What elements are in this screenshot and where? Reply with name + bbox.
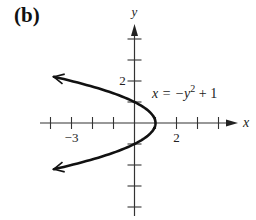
equation-label: x = −y2 + 1 bbox=[151, 83, 217, 101]
axes bbox=[40, 24, 238, 216]
x-tick-label: 2 bbox=[173, 130, 180, 145]
y-axis-arrow-icon bbox=[131, 24, 138, 36]
y-axis-label: y bbox=[130, 4, 138, 19]
x-axis-label: x bbox=[242, 115, 250, 130]
x-tick-label: −3 bbox=[65, 130, 79, 145]
x-axis-arrow-icon bbox=[226, 120, 238, 127]
y-tick-label: 2 bbox=[119, 73, 126, 88]
parabola-plot: xy−322x = −y2 + 1 bbox=[0, 0, 256, 220]
